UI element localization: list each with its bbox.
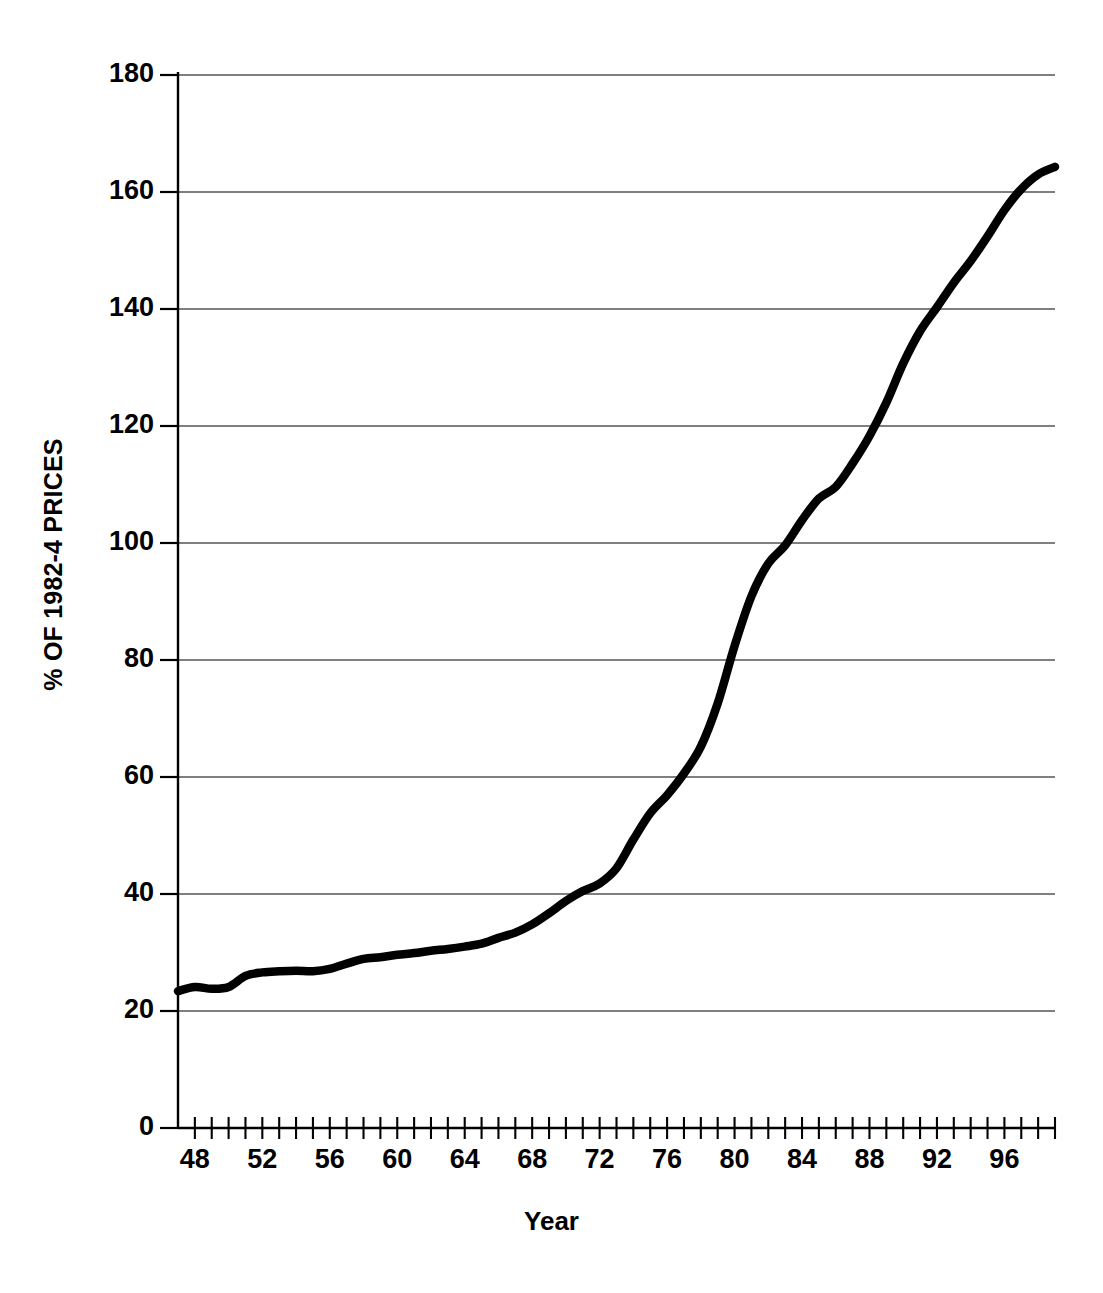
data-series-line — [178, 167, 1055, 991]
plot-area — [0, 0, 1103, 1293]
cpi-line-chart: % OF 1982-4 PRICES Year 0204060801001201… — [0, 0, 1103, 1293]
y-axis-tickmarks — [160, 75, 178, 1128]
